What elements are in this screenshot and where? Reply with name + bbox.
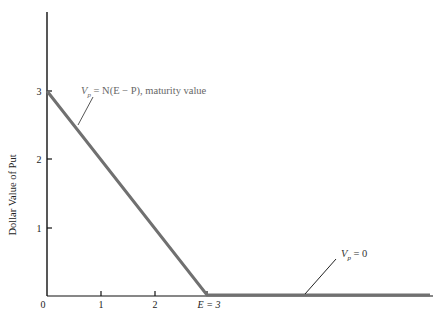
y-tick-label-1: 1 [37,223,42,234]
x-tick-label-2: 2 [153,299,158,310]
put-payoff-chart: 3 2 1 0 1 2 E = 3 Dollar Value of Put Vp… [0,0,442,317]
annotation-maturity-rest: = N(E − P), maturity value [91,85,207,97]
put-payoff-line [47,91,430,295]
y-tick-label-2: 2 [37,154,42,165]
x-tick-label-strike: E = 3 [197,299,221,310]
annotation-zero-rest: = 0 [351,248,367,259]
annotation-leader-zero [305,259,336,294]
origin-label: 0 [41,299,46,310]
annotation-maturity-value: Vp = N(E − P), maturity value [81,85,207,99]
annotation-zero-value: Vp = 0 [341,248,367,262]
x-tick-label-1: 1 [99,299,104,310]
annotation-leader-maturity [78,97,93,125]
y-axis-label: Dollar Value of Put [7,154,18,235]
y-tick-label-3: 3 [37,86,42,97]
